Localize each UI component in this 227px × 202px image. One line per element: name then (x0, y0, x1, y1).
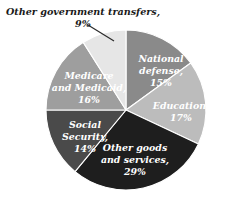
slice-label-medicare-line-3: 16% (78, 94, 100, 105)
slice-label-social-security-line-3: 14% (74, 143, 96, 154)
slice-label-social-security-line-1: Social (69, 119, 101, 130)
slice-label-other-goods-line-2: and services, (101, 154, 169, 165)
slice-label-other-goods-line-1: Other goods (103, 142, 168, 153)
slice-label-education-line-1: Education, (152, 100, 210, 111)
callout-label-line-1: Other government transfers, (6, 6, 160, 18)
slice-label-medicare-line-2: and Medicaid, (52, 82, 126, 93)
pie-chart-svg: Other government transfers, 9% National … (0, 0, 227, 202)
slice-label-medicare-line-1: Medicare (63, 70, 113, 81)
slice-label-social-security-line-2: Security, (62, 131, 108, 142)
pie-chart-figure: Other government transfers, 9% National … (0, 0, 227, 202)
slice-label-national-defense-line-2: defense, (139, 65, 183, 76)
slice-label-national-defense-line-1: National (137, 53, 184, 64)
callout-label-line-2: 9% (75, 18, 91, 29)
slice-label-other-goods-line-3: 29% (123, 166, 146, 177)
slice-label-education-line-2: 17% (170, 112, 192, 123)
slice-label-national-defense-line-3: 15% (150, 77, 172, 88)
